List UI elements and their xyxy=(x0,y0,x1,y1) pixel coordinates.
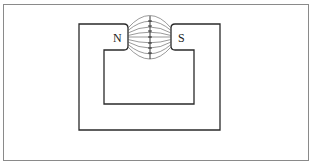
north-pole-label: N xyxy=(113,31,122,45)
magnet-diagram: N S xyxy=(0,0,314,164)
south-pole-label: S xyxy=(178,31,185,45)
field-center-axis xyxy=(148,16,152,59)
